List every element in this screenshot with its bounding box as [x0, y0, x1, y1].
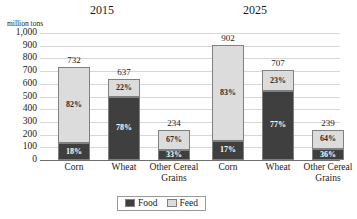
bar-segment-food-label: 33%	[166, 151, 182, 159]
bar-corn[interactable]: 83%17%	[212, 45, 244, 160]
bar-total-label: 637	[94, 68, 154, 77]
y-axis-tick-label: 200	[5, 130, 37, 140]
category-label-line: Other Cereal	[299, 162, 357, 173]
legend-swatch-food-icon	[125, 199, 135, 207]
bar-wheat[interactable]: 22%78%	[108, 79, 140, 160]
bar-corn[interactable]: 82%18%	[58, 67, 90, 160]
legend-item-food: Food	[125, 198, 158, 208]
y-axis-tick-label: 900	[5, 41, 37, 51]
category-label-line: Grains	[299, 173, 357, 184]
legend-label-food: Food	[138, 198, 158, 208]
gridline	[40, 46, 340, 47]
bar-segment-feed-label: 64%	[320, 135, 336, 143]
bar-segment-food-label: 36%	[320, 151, 336, 159]
chart-legend: Food Feed	[117, 196, 206, 211]
gridline	[40, 33, 340, 34]
bar-segment-food[interactable]: 36%	[312, 149, 344, 160]
y-axis-tick-label: 600	[5, 79, 37, 89]
bar-segment-food-label: 17%	[220, 146, 236, 154]
y-axis-tick-label: 500	[5, 92, 37, 102]
bar-total-label: 234	[144, 119, 204, 128]
y-axis-tick-label: 400	[5, 104, 37, 114]
legend-swatch-feed-icon	[167, 199, 177, 207]
category-label-other-cereal-grains: Other CerealGrains	[145, 162, 203, 183]
bar-segment-feed[interactable]: 22%	[108, 79, 140, 97]
bar-segment-feed[interactable]: 64%	[312, 130, 344, 149]
bar-segment-feed-label: 23%	[270, 77, 286, 85]
bar-segment-food-label: 78%	[116, 124, 132, 132]
y-axis-tick-label: 800	[5, 53, 37, 63]
y-axis-tick-labels: 1,0009008007006005004003002001000	[0, 33, 37, 160]
bar-segment-food[interactable]: 33%	[158, 150, 190, 160]
legend-item-feed: Feed	[167, 198, 198, 208]
category-label-other-cereal-grains: Other CerealGrains	[299, 162, 357, 183]
bar-segment-feed-label: 22%	[116, 84, 132, 92]
bar-segment-feed-label: 82%	[66, 101, 82, 109]
legend-label-feed: Feed	[180, 198, 198, 208]
bar-segment-food-label: 77%	[270, 121, 286, 129]
bar-other-cereal-grains[interactable]: 67%33%	[158, 130, 190, 160]
bar-total-label: 732	[44, 56, 104, 65]
y-axis-tick-label: 100	[5, 142, 37, 152]
category-label-line: Other Cereal	[145, 162, 203, 173]
bar-segment-food-label: 18%	[66, 148, 82, 156]
bar-segment-feed[interactable]: 82%	[58, 67, 90, 143]
bar-segment-feed[interactable]: 67%	[158, 130, 190, 150]
bar-other-cereal-grains[interactable]: 64%36%	[312, 130, 344, 160]
y-axis-tick-label: 700	[5, 66, 37, 76]
category-label-line: Grains	[145, 173, 203, 184]
bar-total-label: 707	[248, 59, 308, 68]
bar-segment-feed-label: 83%	[220, 89, 236, 97]
bar-total-label: 902	[198, 34, 258, 43]
y-axis-tick-label: 0	[5, 155, 37, 165]
bar-segment-feed-label: 67%	[166, 136, 182, 144]
bar-wheat[interactable]: 23%77%	[262, 70, 294, 160]
bar-total-label: 239	[298, 119, 357, 128]
y-axis-tick-label: 300	[5, 117, 37, 127]
bar-segment-food[interactable]: 77%	[262, 91, 294, 160]
bar-segment-feed[interactable]: 23%	[262, 70, 294, 91]
plot-area: 82%18%73222%78%63767%33%23483%17%90223%7…	[40, 33, 340, 160]
panel-title-2025: 2025	[215, 3, 295, 18]
y-axis-tick-label: 1,000	[5, 28, 37, 38]
panel-title-2015: 2015	[62, 3, 142, 18]
bar-segment-food[interactable]: 78%	[108, 97, 140, 160]
bar-segment-food[interactable]: 18%	[58, 143, 90, 160]
bar-segment-food[interactable]: 17%	[212, 141, 244, 160]
x-axis-line	[40, 160, 340, 161]
bar-segment-feed[interactable]: 83%	[212, 45, 244, 140]
